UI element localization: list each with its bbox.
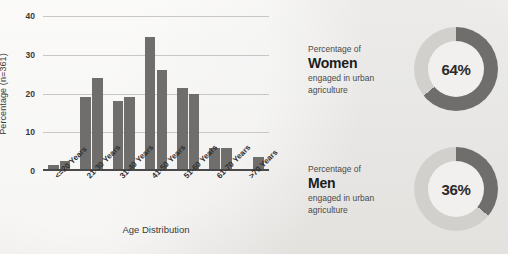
bar	[113, 101, 124, 171]
y-tick-30: 30	[26, 50, 35, 60]
y-axis-tick-labels: 010203040	[0, 16, 40, 171]
bar	[157, 70, 168, 171]
y-tick-40: 40	[26, 11, 35, 21]
stat-subject: Women	[308, 55, 412, 72]
donut-center: 36%	[428, 161, 484, 217]
stat-line-1: Percentage of	[308, 43, 412, 55]
stat-line-1: Percentage of	[308, 163, 412, 175]
stats-panel: Percentage of Women engaged in urban agr…	[300, 0, 508, 254]
stat-block-women: Percentage of Women engaged in urban agr…	[300, 14, 508, 124]
donut-chart-women: 64%	[414, 27, 498, 111]
y-tick-20: 20	[26, 89, 35, 99]
stat-line-4: agriculture	[308, 204, 412, 216]
x-axis-title: Age Distribution	[43, 224, 269, 235]
bar	[177, 88, 188, 171]
stat-block-men: Percentage of Men engaged in urban agric…	[300, 134, 508, 244]
stat-caption-women: Percentage of Women engaged in urban agr…	[300, 43, 412, 96]
bar	[80, 97, 91, 171]
y-tick-10: 10	[26, 127, 35, 137]
donut-value-label: 36%	[441, 181, 470, 198]
stat-line-3: engaged in urban	[308, 192, 412, 204]
y-tick-0: 0	[30, 166, 35, 176]
x-axis-tick-labels: <=20 Years21-30 Years31-40 Years41-50 Ye…	[43, 174, 269, 220]
plot-area	[43, 16, 269, 171]
stat-line-4: agriculture	[308, 84, 412, 96]
stat-subject: Men	[308, 175, 412, 192]
infographic-page: Percentage (n=361) 010203040 <=20 Years2…	[0, 0, 508, 254]
donut-value-label: 64%	[441, 61, 470, 78]
donut-chart-men: 36%	[414, 147, 498, 231]
donut-center: 64%	[428, 41, 484, 97]
bar-series	[43, 16, 269, 171]
bar-chart-panel: Percentage (n=361) 010203040 <=20 Years2…	[0, 0, 300, 254]
stat-caption-men: Percentage of Men engaged in urban agric…	[300, 163, 412, 216]
stat-line-3: engaged in urban	[308, 72, 412, 84]
